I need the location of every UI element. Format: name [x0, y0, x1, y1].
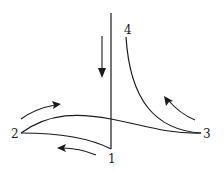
curve-1-to-2	[21, 133, 111, 149]
label-2: 2	[11, 127, 19, 141]
curve-3-to-4	[126, 37, 201, 133]
label-4: 4	[124, 23, 132, 37]
label-3: 3	[203, 127, 211, 141]
arrow-up-left-icon	[164, 96, 195, 120]
arrow-down-icon	[98, 36, 106, 78]
arrow-left-icon	[57, 144, 96, 155]
label-1: 1	[108, 152, 116, 166]
arrow-right-icon	[21, 101, 61, 119]
cycle-diagram: 4 1 2 3	[0, 0, 224, 172]
